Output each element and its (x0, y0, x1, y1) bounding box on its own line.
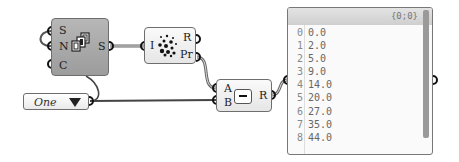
panel-path: {0;0} (391, 11, 418, 21)
list-item: 735.0 (288, 119, 432, 132)
output-pr-label: Pr (180, 48, 193, 61)
dropdown-triangle-icon[interactable] (69, 98, 81, 107)
list-item: 844.0 (288, 132, 432, 145)
input-s-label: S (59, 24, 67, 37)
panel-rows: 00.0 12.0 25.0 39.0 414.0 520.0 627.0 73… (288, 27, 432, 145)
list-item: 39.0 (288, 66, 432, 79)
series-icon (70, 31, 94, 55)
list-item: 12.0 (288, 40, 432, 53)
panel-header: {0;0} (288, 8, 432, 25)
grasshopper-canvas[interactable]: S N C S I R Pr A B (0, 0, 459, 162)
list-item: 00.0 (288, 27, 432, 40)
minus-icon (234, 89, 252, 104)
random-scatter-icon (157, 34, 179, 58)
value-list[interactable]: One (23, 93, 89, 110)
input-i-label: I (150, 39, 154, 52)
value-list-selected: One (34, 96, 57, 109)
input-b-label: B (224, 96, 232, 109)
output-r-label: R (183, 31, 191, 44)
data-panel[interactable]: {0;0} 00.0 12.0 25.0 39.0 414.0 520.0 62… (287, 7, 433, 155)
subtraction-component[interactable]: A B R (216, 79, 272, 112)
panel-scrollbar[interactable] (423, 10, 429, 138)
input-c-label: C (59, 59, 67, 72)
wire-one-to-minus-b (90, 100, 216, 101)
grip-panel-out (433, 76, 437, 84)
grip-random-r-out (196, 35, 200, 43)
random-component[interactable]: I R Pr (144, 27, 196, 64)
output-r-label: R (259, 89, 267, 102)
input-a-label: A (224, 82, 232, 95)
list-item: 627.0 (288, 106, 432, 119)
output-s-label: S (98, 40, 106, 53)
series-component[interactable]: S N C S (51, 18, 109, 76)
list-item: 414.0 (288, 79, 432, 92)
list-item: 25.0 (288, 53, 432, 66)
list-item: 520.0 (288, 92, 432, 105)
input-n-label: N (59, 40, 69, 53)
